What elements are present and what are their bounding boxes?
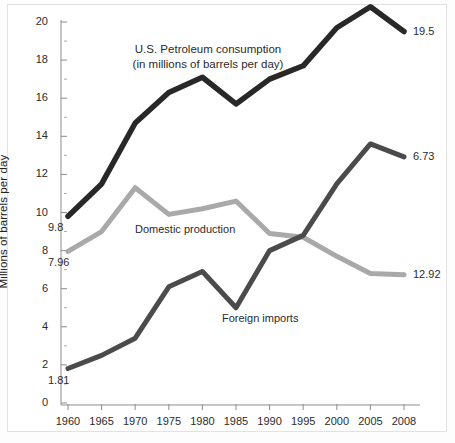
y-tick-label: 2 [20,358,48,370]
y-tick-label: 6 [20,282,48,294]
y-tick-label: 14 [20,129,48,141]
foreign-imports-label: Foreign imports [222,311,298,325]
end-label-domestic: 12.92 [413,268,441,280]
y-tick-label: 12 [20,167,48,179]
start-label-domestic: 7.96 [48,256,69,268]
series-line-foreign-imports [68,144,404,369]
chart-figure: Millions of barrels per day 201816141210… [0,0,455,443]
y-tick-label: 18 [20,53,48,65]
consumption-title-line-2: (in millions of barrels per day) [133,58,284,70]
x-tick-label: 2008 [382,415,426,427]
consumption-series-title: U.S. Petroleum consumption (in millions … [93,42,323,72]
consumption-title-line-1: U.S. Petroleum consumption [135,43,281,55]
y-tick-label: 0 [20,396,48,408]
end-label-imports: 6.73 [413,150,434,162]
start-label-consumption: 9.8 [48,221,63,233]
start-label-imports: 1.81 [48,374,69,386]
y-tick-label: 8 [20,244,48,256]
domestic-production-label: Domestic production [135,222,235,236]
series-line-domestic-production [68,188,404,275]
y-tick-label: 4 [20,320,48,332]
y-tick-label: 20 [20,15,48,27]
end-label-consumption: 19.5 [413,25,434,37]
y-tick-label: 16 [20,91,48,103]
y-tick-label: 10 [20,206,48,218]
series-line-petroleum-consumption [68,7,404,217]
y-axis-ticks [61,22,67,403]
